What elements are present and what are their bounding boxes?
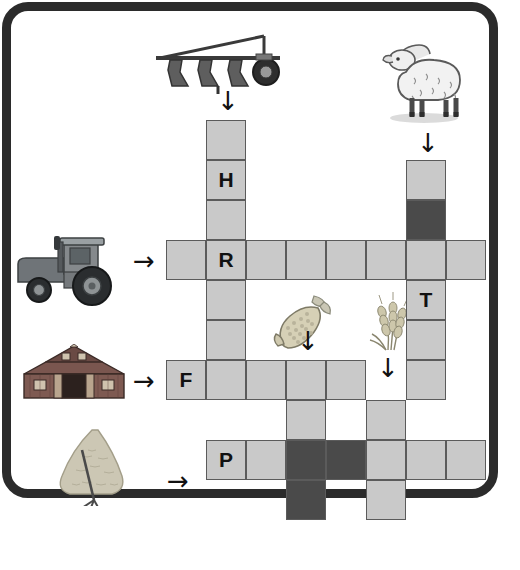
cell-r1c6[interactable] [406, 200, 446, 240]
arrow-tractor-right [133, 248, 155, 274]
cell-r8c4[interactable] [326, 440, 366, 480]
arrow-sheep-down [417, 130, 439, 156]
cell-r2c1[interactable] [206, 200, 246, 240]
cell-r7c5[interactable] [366, 400, 406, 440]
cell-r3c2[interactable] [246, 240, 286, 280]
cell-r6c2[interactable] [246, 360, 286, 400]
arrow-wheat-down [377, 355, 399, 381]
cell-r3c0[interactable] [166, 240, 206, 280]
cell-r5c1[interactable] [206, 320, 246, 360]
cell-r4c6[interactable]: T [406, 280, 446, 320]
cell-r8c1[interactable]: P [206, 440, 246, 480]
cell-r6c0[interactable]: F [166, 360, 206, 400]
arrow-plow-down [217, 88, 239, 114]
cell-r3c7[interactable] [446, 240, 486, 280]
cell-r8c5[interactable] [366, 440, 406, 480]
cell-r3c3[interactable] [286, 240, 326, 280]
cell-r0c1[interactable] [206, 120, 246, 160]
cell-r9c3[interactable] [286, 480, 326, 520]
cell-r6c4[interactable] [326, 360, 366, 400]
cell-r8c6[interactable] [406, 440, 446, 480]
sheep-picture [372, 26, 472, 124]
cell-r8c3[interactable] [286, 440, 326, 480]
cell-r3c4[interactable] [326, 240, 366, 280]
arrow-corn-down [297, 328, 319, 354]
cell-r0c6[interactable] [406, 160, 446, 200]
cell-r3c5[interactable] [366, 240, 406, 280]
cell-r6c6[interactable] [406, 360, 446, 400]
cell-r5c6[interactable] [406, 320, 446, 360]
cell-r1c1[interactable]: H [206, 160, 246, 200]
plow-picture [152, 32, 284, 94]
cell-r4c1[interactable] [206, 280, 246, 320]
arrow-barn-right [133, 368, 155, 394]
cell-r8c7[interactable] [446, 440, 486, 480]
crossword-stage: HRTFP [0, 0, 520, 570]
cell-r3c1[interactable]: R [206, 240, 246, 280]
barn-picture [18, 344, 130, 400]
cell-r9c5[interactable] [366, 480, 406, 520]
tractor-picture [14, 228, 132, 306]
cell-r7c3[interactable] [286, 400, 326, 440]
cell-r3c6[interactable] [406, 240, 446, 280]
haystack-picture [52, 426, 142, 506]
cell-r6c3[interactable] [286, 360, 326, 400]
cell-r8c2[interactable] [246, 440, 286, 480]
arrow-hay-right [167, 468, 189, 494]
cell-r6c1[interactable] [206, 360, 246, 400]
